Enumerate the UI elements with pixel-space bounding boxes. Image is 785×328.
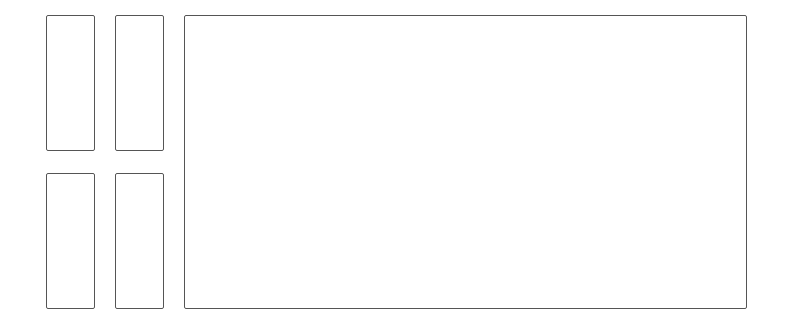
small-panel-top-left — [46, 15, 95, 151]
small-panel-bottom-right — [115, 173, 164, 309]
small-panel-top-right — [115, 15, 164, 151]
small-panel-bottom-left — [46, 173, 95, 309]
main-panel — [184, 15, 747, 309]
